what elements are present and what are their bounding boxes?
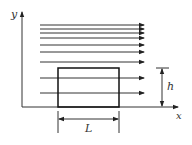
y-axis-label: y <box>10 8 18 21</box>
height-label: h <box>167 80 174 93</box>
flow-diagram: y x h L <box>0 0 192 145</box>
rectangular-obstacle <box>58 68 119 107</box>
width-label: L <box>84 122 92 135</box>
flow-lines <box>40 25 144 93</box>
x-axis-label: x <box>176 110 182 121</box>
